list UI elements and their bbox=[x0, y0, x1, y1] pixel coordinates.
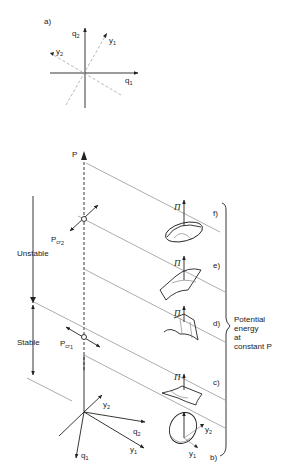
panel-a: a) q2 q1 y1 y2 bbox=[44, 17, 138, 108]
pcr2-point: Pcr2 bbox=[51, 205, 98, 246]
svg-text:q1: q1 bbox=[125, 76, 133, 86]
svg-text:y1: y1 bbox=[130, 445, 137, 455]
svg-text:Pcr1: Pcr1 bbox=[60, 339, 73, 350]
svg-text:Π: Π bbox=[173, 372, 181, 382]
svg-text:y2: y2 bbox=[103, 400, 110, 410]
svg-text:y1: y1 bbox=[189, 449, 196, 459]
surface-f-label: f) bbox=[213, 209, 218, 218]
p-label: P bbox=[72, 150, 77, 159]
surface-b: y2 y1 b) bbox=[164, 408, 217, 462]
svg-text:q2: q2 bbox=[133, 427, 141, 437]
y1-arrow-icon bbox=[103, 33, 107, 38]
svg-text:Pcr2: Pcr2 bbox=[51, 235, 64, 246]
surface-b-label: b) bbox=[210, 453, 217, 462]
y1-axis bbox=[66, 33, 107, 105]
surface-c-label: c) bbox=[213, 378, 220, 387]
stability-ranges: Unstable Stable bbox=[17, 196, 49, 375]
svg-text:y2: y2 bbox=[56, 47, 63, 57]
panel-a-label: a) bbox=[44, 17, 51, 26]
brace-note-line4: constant P bbox=[234, 342, 272, 351]
svg-text:y2: y2 bbox=[205, 425, 212, 435]
surface-e: Π e) bbox=[160, 256, 220, 300]
svg-text:q2: q2 bbox=[72, 29, 80, 39]
brace-note-line3: at bbox=[234, 333, 241, 342]
surface-d-label: d) bbox=[213, 319, 220, 328]
brace-note-line1: Potential bbox=[234, 315, 265, 324]
y2-axis bbox=[50, 53, 121, 95]
pcr1-point: Pcr1 bbox=[60, 327, 100, 350]
y2-arrow-icon bbox=[50, 52, 54, 56]
p-arrow-icon bbox=[81, 151, 87, 160]
unstable-label: Unstable bbox=[17, 249, 49, 258]
surface-e-label: e) bbox=[213, 261, 220, 270]
svg-text:q1: q1 bbox=[81, 451, 89, 461]
svg-text:y1: y1 bbox=[109, 36, 116, 46]
base-axes: y2 q2 y1 q1 bbox=[59, 395, 145, 461]
load-levels bbox=[27, 163, 225, 428]
brace-note-line2: energy bbox=[234, 324, 258, 333]
svg-text:Π: Π bbox=[173, 308, 181, 318]
svg-text:Π: Π bbox=[173, 202, 181, 212]
brace: Potential energy at constant P bbox=[220, 203, 272, 456]
stability-diagram: a) q2 q1 y1 y2 P Pcr2 Pcr1 bbox=[0, 0, 296, 469]
p-axis-group: P bbox=[72, 150, 87, 412]
svg-text:Π: Π bbox=[173, 258, 181, 268]
stable-label: Stable bbox=[17, 338, 40, 347]
